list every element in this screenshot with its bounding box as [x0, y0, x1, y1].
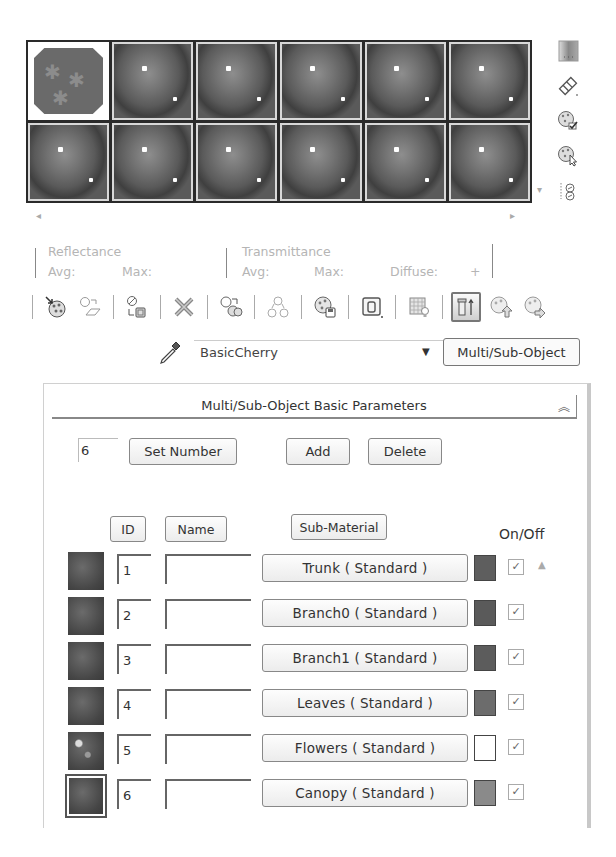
sample-uv-tiling-button[interactable]	[556, 73, 580, 99]
submaterial-thumbnail[interactable]	[68, 552, 104, 590]
go-to-parent-button[interactable]	[485, 292, 515, 322]
submaterial-button[interactable]: Branch0 ( Standard )	[262, 599, 468, 627]
backlight-button[interactable]	[556, 38, 580, 64]
submaterial-enabled-checkbox[interactable]: ✓	[508, 739, 524, 755]
submaterial-row: 2 Branch0 ( Standard ) ✓	[68, 595, 568, 635]
submaterial-thumbnail[interactable]	[68, 642, 104, 680]
collapse-chevron-icon[interactable]: ︽	[558, 397, 570, 414]
delete-button[interactable]: Delete	[368, 438, 442, 465]
sample-slot[interactable]	[280, 123, 361, 201]
submaterial-name-field[interactable]	[165, 599, 251, 629]
show-end-result-icon	[454, 295, 478, 319]
options-button[interactable]	[556, 178, 580, 204]
submaterial-name-field[interactable]	[165, 554, 251, 584]
submaterial-id-field[interactable]: 4	[117, 689, 151, 719]
reset-map-button[interactable]	[169, 292, 199, 322]
submaterial-name-field[interactable]	[165, 689, 251, 719]
make-preview-button[interactable]	[556, 143, 580, 169]
delete-x-icon	[172, 295, 196, 319]
add-button[interactable]: Add	[286, 438, 350, 465]
sample-slot[interactable]	[449, 123, 530, 201]
checker-map-icon	[407, 295, 431, 319]
material-toolbar	[32, 290, 551, 324]
submaterial-row: 5 Flowers ( Standard ) ✓	[68, 730, 568, 770]
submaterial-name-field[interactable]	[165, 734, 251, 764]
sort-by-submaterial-button[interactable]: Sub-Material	[291, 514, 387, 540]
submaterial-thumbnail[interactable]	[68, 597, 104, 635]
submaterial-color-swatch[interactable]	[474, 645, 496, 671]
submaterial-thumbnail[interactable]	[68, 732, 104, 770]
submaterial-id-field[interactable]: 2	[117, 599, 151, 629]
submaterial-row: 6 Canopy ( Standard ) ✓	[68, 775, 568, 815]
submaterial-button[interactable]: Flowers ( Standard )	[262, 734, 468, 762]
submaterial-enabled-checkbox[interactable]: ✓	[508, 784, 524, 800]
submaterial-color-swatch[interactable]	[474, 780, 496, 806]
scroll-down-arrow[interactable]: ▾	[537, 184, 542, 195]
scroll-up-arrow[interactable]: ▲	[538, 559, 546, 570]
sample-slot[interactable]	[365, 42, 446, 120]
material-name-dropdown-arrow[interactable]: ▼	[422, 346, 430, 357]
options-icon	[557, 180, 579, 202]
star-icon: ✱	[68, 70, 85, 90]
material-type-button[interactable]: Multi/Sub-Object	[443, 338, 580, 366]
eyedropper-icon[interactable]	[158, 340, 182, 364]
effects-channel-button[interactable]	[357, 292, 387, 322]
submaterial-enabled-checkbox[interactable]: ✓	[508, 649, 524, 665]
put-to-library-icon	[313, 295, 337, 319]
scroll-right-arrow[interactable]: ▸	[510, 210, 515, 221]
submaterial-thumbnail[interactable]	[68, 777, 104, 815]
submaterial-button[interactable]: Branch1 ( Standard )	[262, 644, 468, 672]
show-end-result-button[interactable]	[451, 292, 481, 322]
put-material-to-scene-button[interactable]	[75, 292, 105, 322]
rollout-header[interactable]: Multi/Sub-Object Basic Parameters ︽	[52, 395, 577, 419]
show-map-in-viewport-button[interactable]	[404, 292, 434, 322]
sample-slot-multi[interactable]: ✱ ✱ ✱	[28, 42, 109, 120]
sample-slot[interactable]	[196, 123, 277, 201]
assign-material-button[interactable]	[122, 292, 152, 322]
sample-slot[interactable]	[112, 123, 193, 201]
reflectance-avg-label: Avg:	[48, 264, 75, 279]
submaterial-color-swatch[interactable]	[474, 690, 496, 716]
sample-slot[interactable]	[112, 42, 193, 120]
submaterial-id-field[interactable]: 1	[117, 554, 151, 584]
go-forward-to-sibling-button[interactable]	[519, 292, 549, 322]
submaterial-button[interactable]: Leaves ( Standard )	[262, 689, 468, 717]
reflectance-max-label: Max:	[122, 264, 152, 279]
get-material-button[interactable]	[41, 292, 71, 322]
submaterial-row: 1 Trunk ( Standard ) ✓ ▲	[68, 550, 568, 590]
sample-slot[interactable]	[280, 42, 361, 120]
video-color-check-button[interactable]	[556, 108, 580, 134]
sample-slot[interactable]	[28, 123, 109, 201]
submaterial-button[interactable]: Canopy ( Standard )	[262, 779, 468, 807]
sort-by-id-button[interactable]: ID	[110, 516, 146, 542]
make-copy-button[interactable]	[216, 292, 246, 322]
transmittance-plus: +	[470, 264, 480, 279]
sphere-check-icon	[557, 110, 579, 132]
submaterial-color-swatch[interactable]	[474, 555, 496, 581]
submaterial-thumbnail[interactable]	[68, 687, 104, 725]
submaterial-name-field[interactable]	[165, 644, 251, 674]
transmittance-avg-label: Avg:	[242, 264, 269, 279]
submaterial-enabled-checkbox[interactable]: ✓	[508, 559, 524, 575]
rollout-title: Multi/Sub-Object Basic Parameters	[52, 398, 576, 413]
submaterial-id-field[interactable]: 5	[117, 734, 151, 764]
scroll-left-arrow[interactable]: ◂	[36, 210, 41, 221]
sample-slot[interactable]	[196, 42, 277, 120]
material-count-field[interactable]: 6	[78, 438, 118, 462]
material-name-input[interactable]	[194, 340, 444, 364]
set-number-button[interactable]: Set Number	[129, 438, 237, 465]
submaterial-color-swatch[interactable]	[474, 735, 496, 761]
submaterial-name-field[interactable]	[165, 779, 251, 809]
submaterial-enabled-checkbox[interactable]: ✓	[508, 604, 524, 620]
submaterial-enabled-checkbox[interactable]: ✓	[508, 694, 524, 710]
make-unique-button[interactable]	[263, 292, 293, 322]
submaterial-color-swatch[interactable]	[474, 600, 496, 626]
sample-slot[interactable]	[449, 42, 530, 120]
sort-by-name-button[interactable]: Name	[165, 516, 227, 542]
make-unique-icon	[266, 295, 290, 319]
submaterial-button[interactable]: Trunk ( Standard )	[262, 554, 468, 582]
sample-slot[interactable]	[365, 123, 446, 201]
submaterial-id-field[interactable]: 3	[117, 644, 151, 674]
put-to-library-button[interactable]	[310, 292, 340, 322]
submaterial-id-field[interactable]: 6	[117, 779, 151, 809]
